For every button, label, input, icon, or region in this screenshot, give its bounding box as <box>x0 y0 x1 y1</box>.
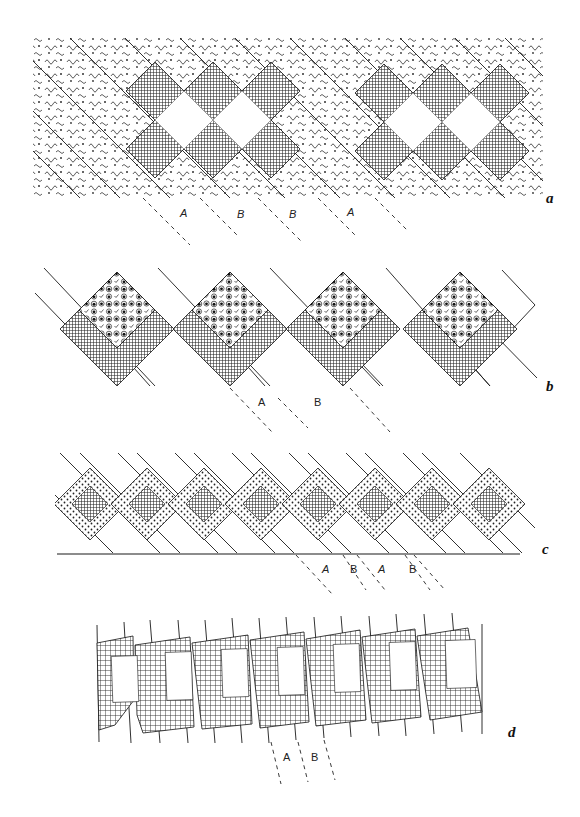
panel-d: A B d <box>0 0 580 817</box>
strip-label: A <box>283 751 290 763</box>
panel-d-drawing <box>0 0 580 817</box>
strip-label: B <box>311 751 318 763</box>
textile-pattern-figure: A B B A a <box>0 0 580 817</box>
panel-label-d: d <box>508 724 516 741</box>
